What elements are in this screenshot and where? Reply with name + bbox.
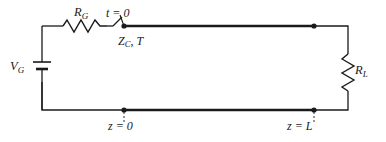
node-bottom-right-dot: [311, 107, 316, 112]
label-resistor-rl: RL: [355, 64, 368, 79]
transmission-line-circuit-figure: RG t = 0 ZC, T VG RL z = 0 z = L: [0, 0, 386, 142]
label-vg-subscript: G: [18, 65, 25, 75]
label-rg-subscript: G: [82, 11, 89, 21]
wire-top-right: [314, 26, 348, 54]
circuit-schematic-svg: [0, 0, 386, 142]
label-delay-symbol: T: [136, 34, 143, 48]
label-vg-text: V: [10, 59, 18, 73]
label-position-near: z = 0: [108, 120, 133, 132]
wire-bottom-right: [314, 91, 348, 110]
label-position-far: z = L: [287, 120, 312, 132]
label-resistor-rg: RG: [74, 6, 88, 21]
node-top-left-dot: [121, 23, 126, 28]
label-line-parameters: ZC, T: [118, 35, 143, 49]
wire-bottom-left: [42, 82, 124, 110]
node-top-right-dot: [311, 23, 316, 28]
label-source-vg: VG: [10, 60, 24, 75]
node-bottom-left-dot: [121, 107, 126, 112]
label-rl-subscript: L: [363, 69, 368, 79]
label-rg-text: R: [74, 5, 82, 19]
resistor-rg-symbol: [63, 20, 107, 32]
label-zc-symbol: Z: [118, 34, 125, 48]
label-rl-text: R: [355, 63, 363, 77]
resistor-rl-symbol: [342, 54, 354, 91]
label-switch-time: t = 0: [106, 7, 129, 19]
